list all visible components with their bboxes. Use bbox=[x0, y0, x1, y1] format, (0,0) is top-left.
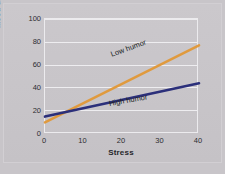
y-axis-title: Mood disturbance bbox=[0, 0, 2, 28]
x-axis-title: Stress bbox=[44, 148, 198, 157]
x-axis-tick-labels: 0 10 20 30 40 bbox=[44, 136, 198, 147]
y-tick-label-20: 20 bbox=[21, 106, 41, 115]
y-tick-label-80: 80 bbox=[21, 37, 41, 46]
x-tick-label-20: 20 bbox=[117, 136, 125, 145]
y-tick-label-100: 100 bbox=[21, 14, 41, 23]
x-tick-label-10: 10 bbox=[78, 136, 86, 145]
x-tick-label-0: 0 bbox=[42, 136, 46, 145]
series-plot bbox=[45, 20, 199, 135]
y-tick-label-0: 0 bbox=[21, 129, 41, 138]
y-axis-tick-labels: 100 80 60 40 20 0 bbox=[19, 18, 41, 133]
plot-area: Low humor High humor bbox=[44, 18, 198, 133]
x-tick-label-40: 40 bbox=[194, 136, 202, 145]
x-tick-label-30: 30 bbox=[155, 136, 163, 145]
chart-figure: Mood disturbance 100 80 60 40 20 0 Low h… bbox=[0, 0, 225, 174]
y-tick-label-60: 60 bbox=[21, 60, 41, 69]
y-tick-label-40: 40 bbox=[21, 83, 41, 92]
